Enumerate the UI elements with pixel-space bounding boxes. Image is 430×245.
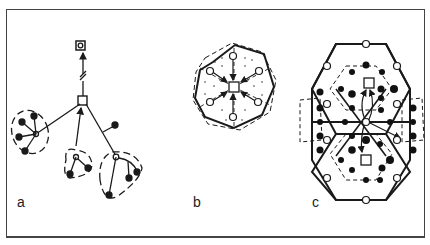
panel-b-label: b <box>193 194 201 210</box>
panel-a-diagram <box>6 41 142 198</box>
center-square-node <box>229 82 239 92</box>
panel-a-label: a <box>17 194 25 210</box>
central-square-node <box>78 96 87 105</box>
figure-canvas <box>0 0 430 245</box>
panel-c-label: c <box>312 194 319 210</box>
panel-b-diagram <box>193 43 276 130</box>
panel-c-diagram <box>300 41 424 204</box>
upper-square-node <box>364 78 374 88</box>
lower-square-node <box>361 155 371 165</box>
